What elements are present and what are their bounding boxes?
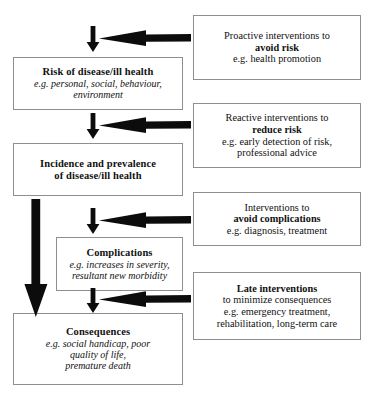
node-risk-detail-line-2: environment: [73, 89, 123, 100]
intervention-proactive-line-1: Proactive interventions to: [224, 30, 330, 42]
node-incidence-heading: Incidence and prevalence: [40, 158, 156, 170]
down-arrow-to-risk: [86, 26, 100, 52]
node-complications-heading: Complications: [86, 247, 152, 259]
intervention-avoid-complications: Interventions to avoid complications e.g…: [193, 192, 361, 246]
node-complications: Complications e.g. increases in severity…: [56, 237, 183, 291]
node-consequences-detail-line-3: premature death: [65, 360, 131, 371]
node-consequences-detail-line-1: e.g. social handicap, poor: [46, 338, 150, 349]
intervention-late-line-4: e.g. emergency treatment,: [224, 306, 330, 318]
intervention-avoid-complications-line-1: Interventions to: [245, 202, 310, 214]
long-bypass-arrow-to-consequences: [24, 199, 48, 317]
node-incidence-line-2: of disease/ill health: [54, 170, 141, 182]
intervention-reactive-line-3: e.g. early detection of risk,: [222, 136, 332, 148]
node-risk-heading: Risk of disease/ill health: [43, 66, 154, 78]
node-consequences-detail-line-2: quality of life,: [70, 349, 126, 360]
node-consequences-heading: Consequences: [66, 326, 130, 338]
diagram-canvas: Risk of disease/ill health e.g. personal…: [0, 0, 370, 393]
intervention-proactive-line-3: e.g. health promotion: [233, 53, 321, 65]
down-arrow-to-incidence: [86, 113, 100, 139]
node-complications-detail-line-2: resultant new morbidity: [72, 270, 167, 281]
node-consequences: Consequences e.g. social handicap, poor …: [13, 313, 183, 385]
intervention-late-line-3: to minimize consequences: [223, 294, 332, 306]
down-arrow-to-consequences: [86, 288, 100, 313]
intervention-avoid-complications-line-3: e.g. diagnosis, treatment: [227, 225, 327, 237]
node-complications-detail-line-1: e.g. increases in severity,: [69, 259, 169, 270]
intervention-avoid-complications-emphasis: avoid complications: [233, 213, 320, 225]
intervention-arrow-reduce-risk: [99, 115, 191, 134]
intervention-reactive: Reactive interventions to reduce risk e.…: [193, 103, 361, 168]
intervention-late: Late interventions to minimize consequen…: [193, 272, 361, 340]
intervention-reactive-line-1: Reactive interventions to: [226, 112, 329, 124]
node-risk-detail-line-1: e.g. personal, social, behaviour,: [34, 78, 162, 89]
intervention-late-emphasis: Late interventions: [237, 283, 317, 295]
node-risk-of-disease: Risk of disease/ill health e.g. personal…: [13, 57, 183, 110]
intervention-arrow-avoid-complications: [99, 210, 191, 229]
intervention-proactive: Proactive interventions to avoid risk e.…: [193, 15, 361, 80]
intervention-reactive-emphasis: reduce risk: [252, 124, 301, 136]
intervention-proactive-emphasis: avoid risk: [255, 42, 299, 54]
down-arrow-to-complications: [86, 208, 100, 234]
intervention-arrow-avoid-risk: [99, 28, 191, 47]
intervention-late-line-5: rehabilitation, long-term care: [217, 318, 337, 330]
intervention-reactive-line-4: professional advice: [237, 147, 317, 159]
node-incidence-prevalence: Incidence and prevalence of disease/ill …: [13, 143, 183, 196]
intervention-arrow-late: [99, 289, 191, 308]
